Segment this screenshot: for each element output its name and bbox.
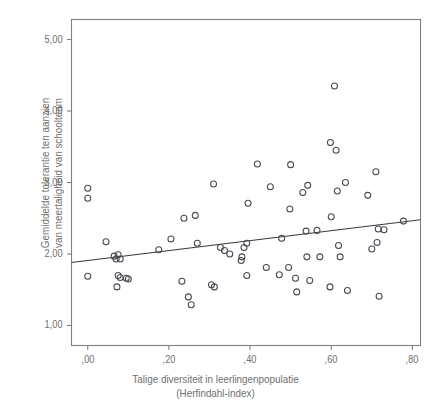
data-point xyxy=(114,284,120,290)
data-point xyxy=(254,161,260,167)
y-axis-title-line2: van meertaligheid van schoolteam xyxy=(52,41,65,304)
data-points xyxy=(85,83,407,308)
data-point xyxy=(192,212,198,218)
axis-ticks xyxy=(67,40,412,350)
data-point xyxy=(188,302,194,308)
data-point xyxy=(375,226,381,232)
data-point xyxy=(286,265,292,271)
x-tick-label: ,80 xyxy=(389,354,431,365)
data-point xyxy=(342,180,348,186)
data-point xyxy=(241,245,247,251)
data-point xyxy=(337,254,343,260)
data-point xyxy=(194,240,200,246)
data-point xyxy=(211,181,217,187)
x-tick-label: ,60 xyxy=(308,354,354,365)
data-point xyxy=(85,273,91,279)
data-point xyxy=(85,195,91,201)
x-axis-title-line1: Talige diversiteit in leerlingenpopulati… xyxy=(13,372,418,386)
data-point xyxy=(365,192,371,198)
data-point xyxy=(85,185,91,191)
data-point xyxy=(334,188,340,194)
data-point xyxy=(317,254,323,260)
data-point xyxy=(293,275,299,281)
data-point xyxy=(304,254,310,260)
data-point xyxy=(245,200,251,206)
data-point xyxy=(179,278,185,284)
x-tick-label: ,20 xyxy=(146,354,192,365)
y-tick-label: 1,00 xyxy=(22,319,63,330)
data-point xyxy=(369,246,375,252)
data-point xyxy=(373,169,379,175)
x-axis-title: Talige diversiteit in leerlingenpopulati… xyxy=(0,372,431,400)
y-axis-title: Gemiddelde tolerantie ten aanzien van me… xyxy=(39,33,65,313)
data-point xyxy=(376,293,382,299)
regression-line xyxy=(72,220,421,263)
x-tick-label: ,00 xyxy=(65,354,111,365)
data-point xyxy=(279,235,285,241)
scatter-plot-figure: 1,002,003,004,005,00 ,00,20,40,60,80 Tal… xyxy=(0,0,431,407)
data-point xyxy=(333,147,339,153)
plot-frame xyxy=(72,20,421,346)
data-point xyxy=(328,214,334,220)
data-point xyxy=(168,236,174,242)
data-point xyxy=(307,277,313,283)
data-point xyxy=(327,139,333,145)
data-point xyxy=(227,251,233,257)
data-point xyxy=(263,265,269,271)
data-point xyxy=(238,257,244,263)
data-point xyxy=(276,272,282,278)
data-point xyxy=(374,240,380,246)
data-point xyxy=(294,289,300,295)
data-point xyxy=(287,206,293,212)
data-point xyxy=(300,190,306,196)
data-point xyxy=(185,294,191,300)
x-tick-label: ,40 xyxy=(227,354,273,365)
data-point xyxy=(181,215,187,221)
data-point xyxy=(305,182,311,188)
data-point xyxy=(331,83,337,89)
data-point xyxy=(336,242,342,248)
y-axis-title-line1: Gemiddelde tolerantie ten aanzien xyxy=(39,41,52,304)
data-point xyxy=(103,239,109,245)
data-point xyxy=(267,184,273,190)
x-axis-title-line2: (Herfindahl-index) xyxy=(13,386,418,400)
data-point xyxy=(327,284,333,290)
data-point xyxy=(288,162,294,168)
data-point xyxy=(344,287,350,293)
data-point xyxy=(381,227,387,233)
data-point xyxy=(244,272,250,278)
